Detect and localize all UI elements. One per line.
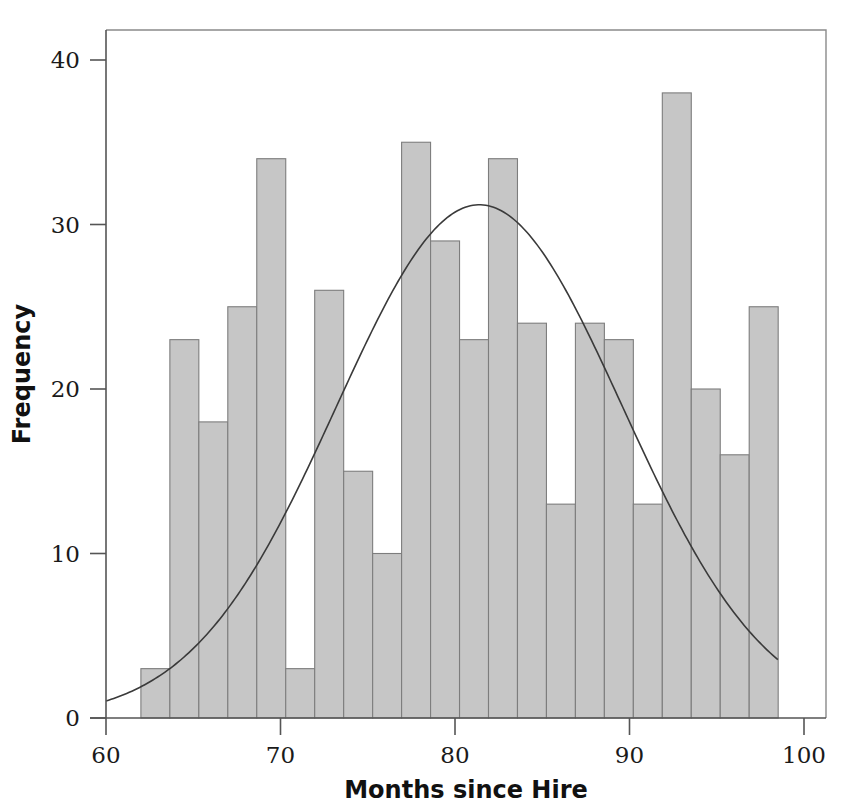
histogram-figure: 010203040 60708090100 Frequency Months s… — [0, 0, 853, 811]
histogram-bar — [604, 340, 633, 718]
chart-canvas: 010203040 60708090100 Frequency Months s… — [0, 0, 853, 811]
y-tick-label: 10 — [51, 541, 80, 567]
histogram-bar — [720, 455, 749, 718]
x-axis-ticks: 60708090100 — [91, 718, 826, 768]
histogram-bar — [662, 93, 691, 718]
y-tick-label: 30 — [51, 212, 80, 238]
histogram-bar — [633, 504, 662, 718]
x-tick-label: 80 — [440, 742, 469, 768]
histogram-bar — [460, 340, 489, 718]
histogram-bar — [344, 471, 373, 718]
histogram-bar — [575, 323, 604, 718]
histogram-bar — [228, 307, 257, 718]
histogram-bar — [199, 422, 228, 718]
histogram-bar — [546, 504, 575, 718]
histogram-bar — [170, 340, 199, 718]
y-axis-title: Frequency — [8, 303, 36, 444]
y-tick-label: 0 — [65, 705, 80, 731]
y-tick-label: 40 — [51, 47, 80, 73]
x-tick-label: 90 — [615, 742, 644, 768]
histogram-bar — [141, 669, 170, 718]
histogram-bar — [489, 159, 518, 718]
x-tick-label: 100 — [782, 742, 826, 768]
histogram-bar — [373, 554, 402, 719]
histogram-bar — [286, 669, 315, 718]
histogram-bar — [257, 159, 286, 718]
y-tick-label: 20 — [51, 376, 80, 402]
histogram-bar — [431, 241, 460, 718]
histogram-bar — [517, 323, 546, 718]
histogram-bars — [141, 93, 778, 718]
x-tick-label: 60 — [91, 742, 120, 768]
y-axis-ticks: 010203040 — [51, 47, 106, 731]
x-tick-label: 70 — [266, 742, 295, 768]
histogram-bar — [315, 290, 344, 718]
x-axis-title: Months since Hire — [344, 776, 588, 804]
histogram-bar — [402, 142, 431, 718]
